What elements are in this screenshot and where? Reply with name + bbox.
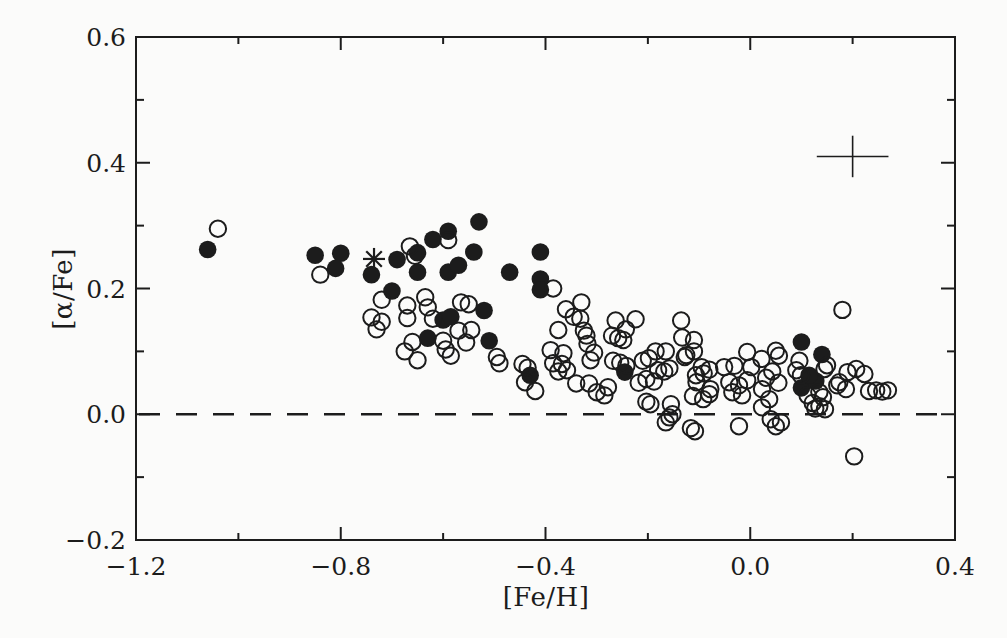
data-point-open bbox=[674, 329, 690, 345]
data-point-filled bbox=[388, 251, 406, 269]
data-point-filled bbox=[470, 213, 488, 231]
data-point-open bbox=[734, 387, 750, 403]
data-point-open bbox=[658, 343, 674, 359]
data-point-filled bbox=[409, 263, 427, 281]
data-point-open bbox=[409, 352, 425, 368]
data-point-open bbox=[721, 374, 737, 390]
scatter-figure: −1.2−0.8−0.40.00.40.60.40.20.0−0.2 [Fe/H… bbox=[0, 0, 1007, 638]
data-point-open bbox=[724, 384, 740, 400]
y-tick-label: 0.0 bbox=[86, 400, 126, 429]
data-point-filled bbox=[306, 246, 324, 264]
data-point-open bbox=[210, 221, 226, 237]
data-point-open bbox=[607, 312, 623, 328]
data-point-filled bbox=[532, 243, 550, 261]
x-tick-label: −0.4 bbox=[515, 552, 576, 581]
data-point-open bbox=[550, 322, 566, 338]
data-point-open bbox=[312, 266, 328, 282]
data-point-filled bbox=[363, 266, 381, 284]
x-tick-label: 0.0 bbox=[730, 552, 770, 581]
y-tick-label: 0.4 bbox=[86, 149, 126, 178]
data-point-open bbox=[846, 448, 862, 464]
data-point-open bbox=[627, 311, 643, 327]
data-point-filled bbox=[793, 333, 811, 351]
data-point-open bbox=[673, 312, 689, 328]
data-point-open bbox=[753, 351, 769, 367]
data-point-open bbox=[527, 383, 543, 399]
data-point-filled bbox=[480, 332, 498, 350]
data-point-filled bbox=[419, 329, 437, 347]
data-point-open bbox=[489, 349, 505, 365]
data-point-asterisk bbox=[363, 248, 385, 270]
data-point-open bbox=[687, 423, 703, 439]
data-point-filled bbox=[450, 256, 468, 274]
data-point-filled bbox=[424, 231, 442, 249]
x-axis-label: [Fe/H] bbox=[446, 582, 646, 612]
data-point-open bbox=[417, 289, 433, 305]
x-tick-label: −0.8 bbox=[310, 552, 371, 581]
data-point-open bbox=[641, 350, 657, 366]
data-point-filled bbox=[332, 244, 350, 262]
y-tick-label: −0.2 bbox=[65, 526, 126, 555]
data-point-open bbox=[374, 292, 390, 308]
data-point-open bbox=[726, 358, 742, 374]
data-point-open bbox=[731, 418, 747, 434]
data-point-open bbox=[686, 332, 702, 348]
y-axis-label: [α/Fe] bbox=[48, 229, 80, 349]
data-point-open bbox=[399, 310, 415, 326]
data-point-open bbox=[661, 360, 677, 376]
data-point-open bbox=[638, 393, 654, 409]
data-point-filled bbox=[501, 263, 519, 281]
data-point-filled bbox=[465, 243, 483, 261]
plot-canvas: −1.2−0.8−0.40.00.40.60.40.20.0−0.2 bbox=[0, 0, 1007, 638]
data-point-open bbox=[771, 348, 787, 364]
data-point-open bbox=[773, 414, 789, 430]
x-tick-label: 0.4 bbox=[935, 552, 975, 581]
data-point-open bbox=[514, 356, 530, 372]
y-tick-label: 0.2 bbox=[86, 275, 126, 304]
y-tick-label: 0.6 bbox=[86, 23, 126, 52]
data-point-filled bbox=[199, 241, 217, 259]
data-point-open bbox=[834, 302, 850, 318]
data-point-filled bbox=[383, 282, 401, 300]
x-tick-label: −1.2 bbox=[106, 552, 167, 581]
